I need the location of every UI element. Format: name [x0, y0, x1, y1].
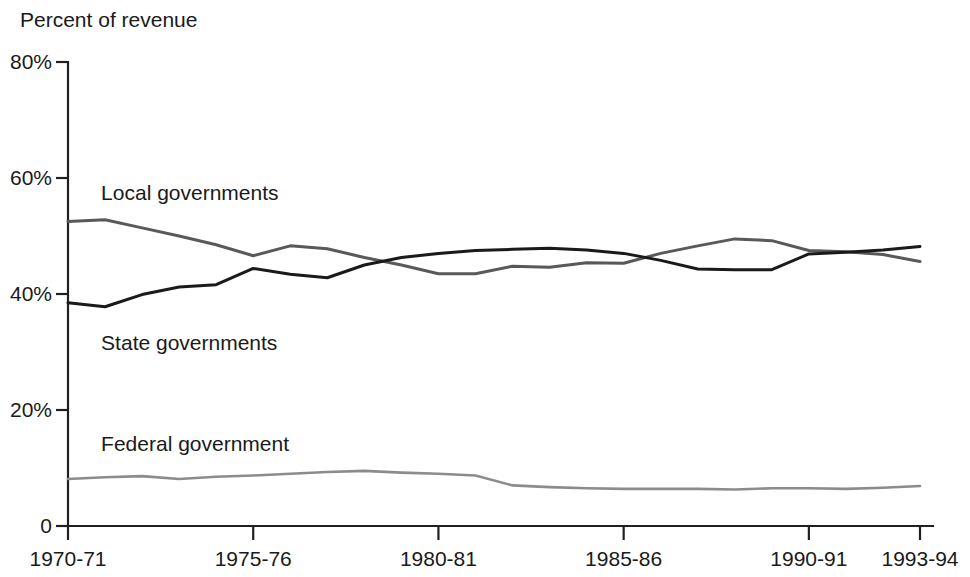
x-tick-label: 1985-86	[585, 547, 662, 570]
x-axis-tick-group: 1970-711975-761980-811985-861990-911993-…	[29, 526, 958, 570]
series-label-local-governments: Local governments	[101, 181, 278, 204]
revenue-percent-line-chart: Percent of revenue 020%40%60%80% 1970-71…	[0, 0, 970, 577]
chart-container: Percent of revenue 020%40%60%80% 1970-71…	[0, 0, 970, 577]
x-tick-label: 1980-81	[400, 547, 477, 570]
y-axis-caption: Percent of revenue	[20, 8, 197, 31]
y-tick-label: 40%	[10, 282, 52, 305]
series-label-federal-government: Federal government	[101, 432, 289, 455]
x-tick-label: 1970-71	[29, 547, 106, 570]
series-line-local-governments	[68, 220, 920, 274]
x-tick-label: 1990-91	[770, 547, 847, 570]
y-tick-label: 80%	[10, 50, 52, 73]
series-line-federal-government	[68, 471, 920, 490]
series-line-state-governments	[68, 246, 920, 306]
series-label-state-governments: State governments	[101, 331, 277, 354]
x-tick-label: 1993-94	[881, 547, 958, 570]
series-label-group: Local governmentsState governmentsFedera…	[101, 181, 289, 455]
y-axis-tick-group: 020%40%60%80%	[10, 50, 68, 537]
y-tick-label: 20%	[10, 398, 52, 421]
y-tick-label: 0	[40, 514, 52, 537]
x-tick-label: 1975-76	[215, 547, 292, 570]
y-tick-label: 60%	[10, 166, 52, 189]
